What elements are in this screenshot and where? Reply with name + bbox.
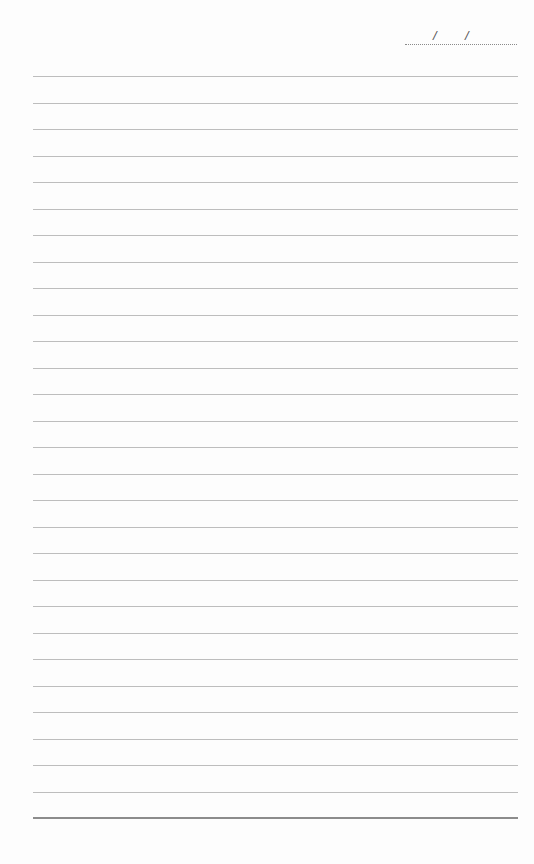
date-field[interactable]: / / (405, 28, 517, 45)
ruled-line (33, 739, 518, 740)
ruled-line (33, 474, 518, 475)
writing-area[interactable] (33, 50, 518, 815)
ruled-line (33, 182, 518, 183)
ruled-line (33, 341, 518, 342)
ruled-line (33, 421, 518, 422)
date-separator: / (433, 28, 437, 43)
ruled-line (33, 553, 518, 554)
bottom-rule (33, 817, 518, 819)
ruled-line (33, 156, 518, 157)
ruled-line (33, 712, 518, 713)
ruled-line (33, 659, 518, 660)
ruled-line (33, 368, 518, 369)
ruled-line (33, 394, 518, 395)
ruled-line (33, 315, 518, 316)
ruled-line (33, 633, 518, 634)
ruled-line (33, 606, 518, 607)
ruled-line (33, 76, 518, 77)
ruled-line (33, 447, 518, 448)
ruled-line (33, 262, 518, 263)
ruled-line (33, 527, 518, 528)
ruled-line (33, 686, 518, 687)
ruled-line (33, 765, 518, 766)
ruled-line (33, 580, 518, 581)
date-separator: / (465, 28, 469, 43)
ruled-line (33, 792, 518, 793)
ruled-line (33, 235, 518, 236)
ruled-line (33, 288, 518, 289)
ruled-line (33, 500, 518, 501)
ruled-line (33, 103, 518, 104)
ruled-line (33, 209, 518, 210)
ruled-line (33, 129, 518, 130)
